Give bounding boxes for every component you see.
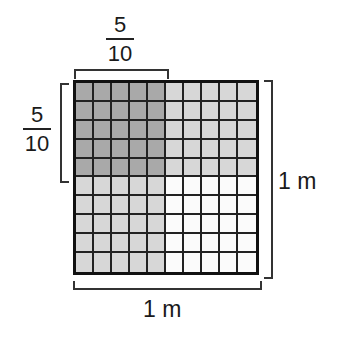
grid-cell-unshaded — [184, 234, 202, 253]
grid-cell-dark — [130, 83, 148, 102]
grid-cell-light — [148, 253, 166, 272]
grid-cell-light — [94, 253, 112, 272]
grid-cell-dark — [76, 102, 94, 121]
top-bracket — [74, 69, 169, 79]
grid-cell-unshaded — [202, 177, 220, 196]
grid-cell-light — [238, 83, 256, 102]
grid-cell-light — [76, 215, 94, 234]
grid-cell-dark — [148, 140, 166, 159]
grid-cell-unshaded — [238, 234, 256, 253]
grid-cell-light — [238, 121, 256, 140]
grid-cell-light — [166, 159, 184, 178]
grid-cell-light — [112, 177, 130, 196]
grid-cell-unshaded — [220, 196, 238, 215]
grid-cell-light — [94, 234, 112, 253]
top-fraction-denominator: 10 — [108, 43, 132, 65]
grid-cell-unshaded — [220, 234, 238, 253]
left-fraction: 5 10 — [20, 104, 54, 155]
grid-cell-light — [130, 234, 148, 253]
grid-cell-light — [220, 83, 238, 102]
grid-cell-light — [166, 140, 184, 159]
grid-cell-unshaded — [184, 215, 202, 234]
grid-cell-light — [202, 140, 220, 159]
grid-cell-dark — [148, 83, 166, 102]
grid-cell-dark — [130, 121, 148, 140]
grid-cell-light — [184, 121, 202, 140]
left-bracket — [60, 83, 69, 183]
grid-cell-dark — [148, 159, 166, 178]
grid-cell-unshaded — [166, 177, 184, 196]
grid-cell-light — [112, 234, 130, 253]
grid-cell-light — [112, 215, 130, 234]
grid-cell-unshaded — [166, 196, 184, 215]
grid-cell-unshaded — [238, 215, 256, 234]
grid-cell-light — [148, 196, 166, 215]
grid-cell-light — [184, 159, 202, 178]
grid-cell-light — [76, 177, 94, 196]
bottom-bracket — [73, 281, 262, 290]
grid-cell-light — [220, 102, 238, 121]
grid-cell-unshaded — [166, 215, 184, 234]
grid-cell-dark — [148, 121, 166, 140]
bottom-length-label: 1 m — [143, 298, 181, 321]
grid-cell-light — [166, 121, 184, 140]
grid-cell-light — [220, 159, 238, 178]
grid-cell-dark — [76, 140, 94, 159]
grid-cell-dark — [112, 102, 130, 121]
grid-cell-light — [76, 196, 94, 215]
top-fraction-numerator: 5 — [114, 14, 126, 36]
grid-cell-light — [166, 102, 184, 121]
grid-cell-light — [112, 196, 130, 215]
grid-cell-dark — [94, 121, 112, 140]
grid-cell-light — [238, 102, 256, 121]
grid-cell-light — [202, 102, 220, 121]
grid-cell-dark — [130, 159, 148, 178]
grid-cell-unshaded — [184, 196, 202, 215]
hundred-square-grid — [73, 80, 259, 275]
grid-cell-light — [220, 121, 238, 140]
grid-cell-dark — [112, 159, 130, 178]
grid-cell-unshaded — [220, 253, 238, 272]
grid-cell-light — [166, 83, 184, 102]
grid-cell-unshaded — [166, 234, 184, 253]
grid-cell-light — [238, 140, 256, 159]
grid-cell-dark — [76, 121, 94, 140]
grid-cell-light — [130, 253, 148, 272]
grid-cell-unshaded — [166, 253, 184, 272]
grid-cell-light — [184, 102, 202, 121]
grid-cell-unshaded — [220, 215, 238, 234]
grid-cell-unshaded — [202, 196, 220, 215]
left-fraction-denominator: 10 — [25, 133, 49, 155]
grid-cell-unshaded — [202, 215, 220, 234]
grid-cell-light — [130, 215, 148, 234]
grid-cell-dark — [94, 102, 112, 121]
grid-cell-light — [76, 253, 94, 272]
fraction-bar — [23, 128, 51, 130]
grid-cell-unshaded — [202, 234, 220, 253]
grid-cell-light — [148, 177, 166, 196]
grid-cell-dark — [130, 140, 148, 159]
grid-cell-light — [202, 83, 220, 102]
grid-cell-light — [238, 159, 256, 178]
grid-cell-dark — [76, 83, 94, 102]
grid-cell-unshaded — [238, 196, 256, 215]
grid-cell-dark — [112, 140, 130, 159]
grid-cell-unshaded — [238, 253, 256, 272]
right-length-label: 1 m — [278, 170, 316, 193]
fraction-area-model: 5 10 5 10 1 m 1 m — [0, 0, 338, 339]
grid-cell-light — [94, 215, 112, 234]
grid-cell-light — [184, 83, 202, 102]
grid-cell-light — [148, 215, 166, 234]
grid-cell-light — [130, 196, 148, 215]
grid-cell-unshaded — [184, 253, 202, 272]
grid-cell-light — [148, 234, 166, 253]
top-fraction: 5 10 — [103, 14, 137, 65]
grid-cell-dark — [112, 121, 130, 140]
grid-cell-light — [202, 159, 220, 178]
grid-cell-unshaded — [220, 177, 238, 196]
grid-cell-unshaded — [184, 177, 202, 196]
grid-cell-unshaded — [238, 177, 256, 196]
grid-cell-dark — [148, 102, 166, 121]
grid-cell-light — [202, 121, 220, 140]
right-bracket — [264, 80, 273, 279]
